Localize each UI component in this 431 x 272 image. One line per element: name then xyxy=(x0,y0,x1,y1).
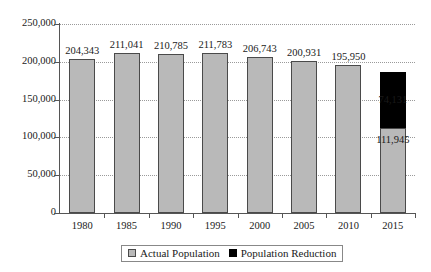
data-label-population-reduction: 74,131 xyxy=(358,94,428,105)
legend-item-actual-population: Actual Population xyxy=(128,247,220,259)
y-axis-tick xyxy=(54,24,60,25)
x-axis-tick xyxy=(415,213,416,218)
y-axis-tick xyxy=(54,175,60,176)
y-axis-tick xyxy=(54,213,60,214)
x-axis-tick xyxy=(238,213,239,218)
x-axis-tick xyxy=(193,213,194,218)
legend-label-population-reduction: Population Reduction xyxy=(241,247,337,259)
x-axis-tick xyxy=(371,213,372,218)
data-label-actual-population: 195,950 xyxy=(313,51,383,62)
gray-square-icon xyxy=(128,249,136,257)
x-axis-tick xyxy=(149,213,150,218)
x-axis-tick-label: 2015 xyxy=(363,220,423,232)
population-bar-chart: 050,000100,000150,000200,000250,000 1980… xyxy=(0,0,431,272)
y-axis-tick xyxy=(54,137,60,138)
chart-legend: Actual Population Population Reduction xyxy=(121,245,343,262)
data-label-actual-population: 111,945 xyxy=(358,134,428,145)
y-axis-tick xyxy=(54,62,60,63)
legend-label-actual-population: Actual Population xyxy=(140,247,220,259)
black-square-icon xyxy=(229,249,237,257)
y-axis-tick xyxy=(54,100,60,101)
x-axis-tick xyxy=(326,213,327,218)
x-axis-tick xyxy=(282,213,283,218)
x-axis-tick xyxy=(104,213,105,218)
legend-item-population-reduction: Population Reduction xyxy=(229,247,337,259)
